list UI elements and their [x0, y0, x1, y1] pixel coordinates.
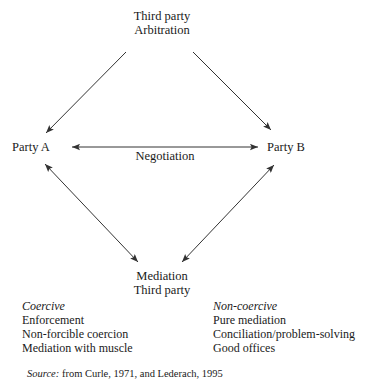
edge-label-negotiation: Negotiation: [135, 150, 194, 164]
arrow-arbitration-to-party-b: [193, 52, 271, 130]
category-item: Good offices: [213, 341, 355, 355]
arrow-arbitration-to-party-a: [46, 52, 126, 133]
node-party-a-label: Party A: [12, 141, 50, 155]
source-label: Source:: [27, 368, 59, 379]
category-heading-non-coercive: Non-coercive: [213, 299, 355, 313]
category-item: Mediation with muscle: [22, 341, 133, 355]
category-item: Conciliation/problem-solving: [213, 327, 355, 341]
category-list-non-coercive: Non-coercive Pure mediation Conciliation…: [213, 299, 355, 355]
node-mediation-third-party: Mediation Third party: [134, 270, 191, 297]
category-list-coercive: Coercive Enforcement Non-forcible coerci…: [22, 299, 133, 355]
node-mediation-line1: Mediation: [134, 270, 191, 284]
source-note: Source: from Curle, 1971, and Lederach, …: [27, 367, 223, 380]
node-mediation-line2: Third party: [134, 284, 191, 298]
category-item: Enforcement: [22, 313, 133, 327]
node-arbitration-line1: Third party: [134, 10, 191, 24]
category-item: Non-forcible coercion: [22, 327, 133, 341]
diagram-canvas: Third party Arbitration Party A Party B …: [0, 0, 385, 387]
arrow-party-a-mediation: [45, 164, 138, 262]
node-party-b: Party B: [267, 141, 305, 155]
node-party-a: Party A: [12, 141, 50, 155]
node-third-party-arbitration: Third party Arbitration: [134, 10, 191, 37]
arrow-party-b-mediation: [182, 165, 274, 262]
category-heading-coercive: Coercive: [22, 299, 133, 313]
node-party-b-label: Party B: [267, 141, 305, 155]
node-arbitration-line2: Arbitration: [134, 24, 191, 38]
source-text: from Curle, 1971, and Lederach, 1995: [59, 368, 223, 379]
category-item: Pure mediation: [213, 313, 355, 327]
